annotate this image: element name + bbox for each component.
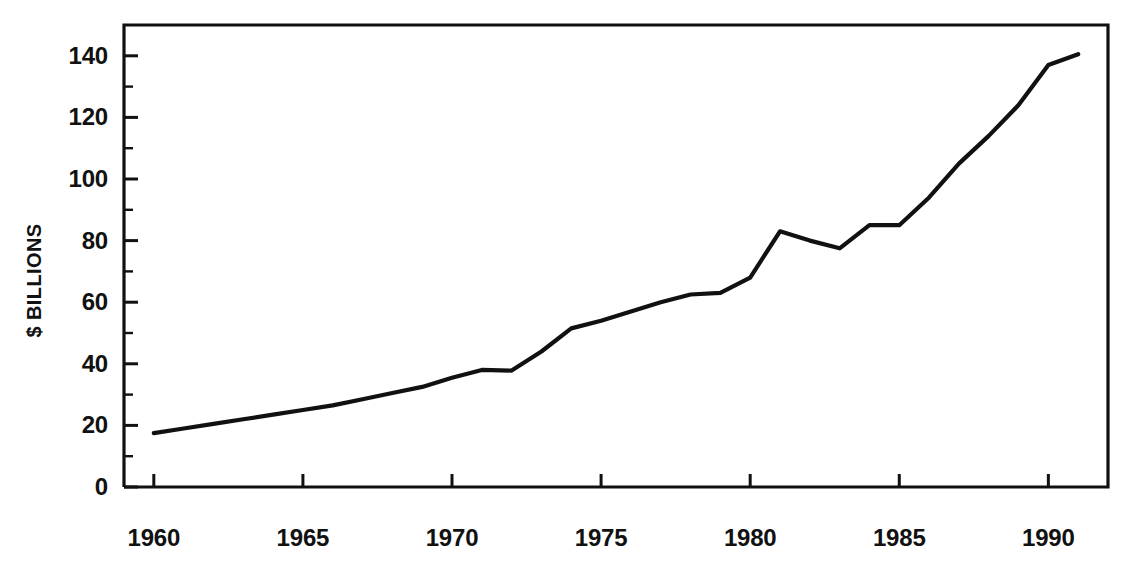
data-series-line	[154, 54, 1078, 433]
line-chart: $ BILLIONS 020406080100120140 1960196519…	[0, 0, 1137, 574]
plot-frame	[124, 25, 1108, 487]
plot-area	[0, 0, 1137, 574]
